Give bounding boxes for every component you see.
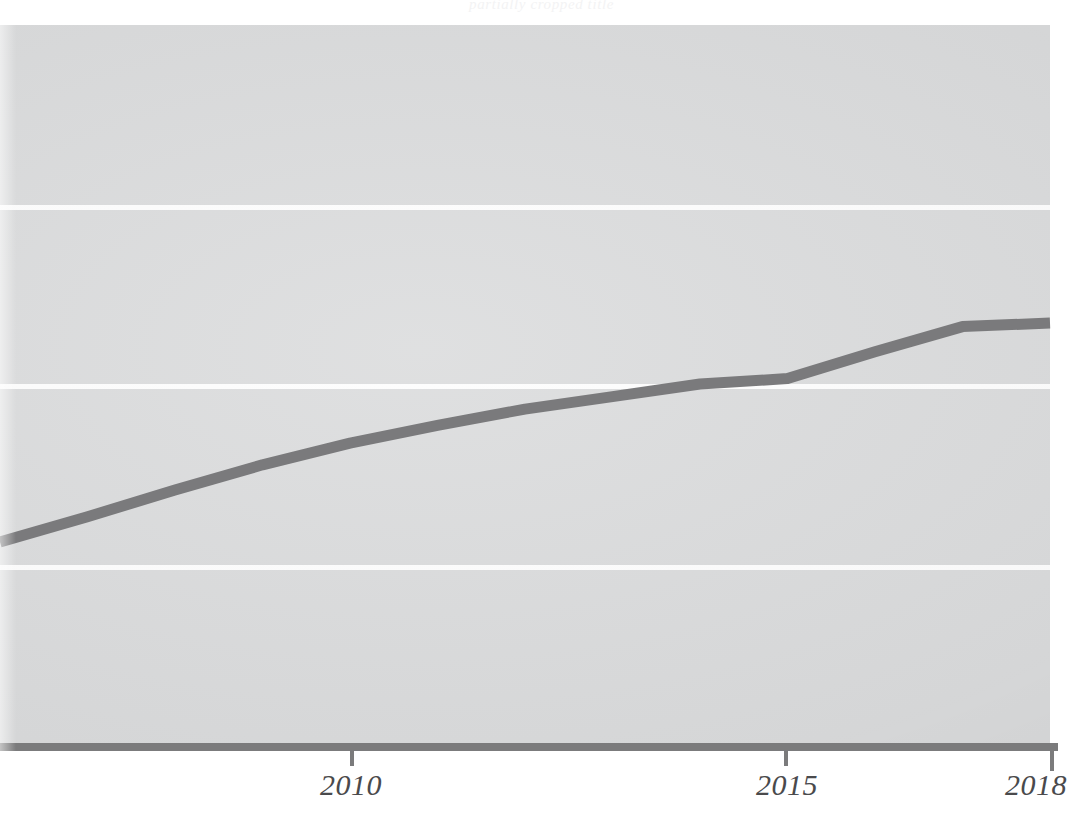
chart-figure: partially cropped title 2010 2015 2018 bbox=[0, 0, 1083, 821]
x-tick-2010 bbox=[350, 749, 354, 766]
plot-area bbox=[0, 25, 1050, 743]
gridline-top bbox=[0, 205, 1050, 210]
x-label-2015: 2015 bbox=[756, 768, 818, 802]
x-label-2010: 2010 bbox=[320, 768, 382, 802]
gridline-bottom bbox=[0, 565, 1050, 570]
x-axis-line bbox=[0, 743, 1058, 751]
x-label-2018: 2018 bbox=[1005, 768, 1067, 802]
chart-title-cropped: partially cropped title bbox=[0, 0, 1083, 13]
gridline-middle bbox=[0, 384, 1050, 389]
x-tick-2015 bbox=[784, 749, 788, 766]
scan-edge-fade-bottom bbox=[0, 811, 1083, 821]
